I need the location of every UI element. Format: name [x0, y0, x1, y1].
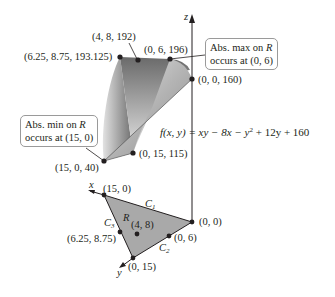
callout-abs-min: Abs. min on R occurs at (15, 0)	[20, 115, 98, 147]
label-r1: (15, 0)	[103, 184, 131, 195]
label-p6: (0, 15, 115)	[139, 149, 188, 160]
point-p5	[101, 158, 106, 163]
point-r6	[135, 232, 140, 237]
label-p4: (0, 0, 160)	[198, 75, 242, 86]
point-r5	[118, 230, 123, 235]
z-axis-arrow-icon	[189, 14, 195, 23]
y-axis-label: y	[117, 268, 122, 279]
label-r5: (6.25, 8.75)	[67, 234, 116, 245]
point-p2	[135, 57, 140, 62]
label-r2: (0, 0)	[199, 217, 222, 228]
point-p4	[189, 76, 194, 81]
point-r2	[190, 220, 195, 225]
point-p1	[117, 54, 122, 59]
leader-max-callout	[170, 55, 205, 59]
label-p3: (0, 6, 196)	[144, 45, 188, 56]
curve-label-c3: C3	[104, 218, 115, 230]
label-r6: (4, 8)	[131, 220, 154, 231]
x-axis-label: x	[89, 180, 94, 191]
label-p1: (6.25, 8.75, 193.125)	[24, 52, 112, 63]
function-formula: f(x, y) = xy − 8x − y2 + 12y + 160	[160, 126, 309, 138]
curve-label-c1: C1	[145, 199, 156, 211]
label-p2: (4, 8, 192)	[92, 32, 136, 43]
point-p3	[167, 56, 172, 61]
region-label: R	[123, 213, 129, 224]
curve-label-c2: C2	[159, 243, 170, 255]
label-p5: (15, 0, 40)	[55, 163, 99, 174]
x-axis-arrow-icon	[88, 190, 95, 194]
z-axis-label: z	[184, 12, 188, 23]
leader-p2	[129, 43, 137, 59]
label-r4: (0, 15)	[128, 262, 156, 273]
callout-abs-max: Abs. max on R occurs at (0, 6)	[205, 38, 278, 70]
point-r3	[167, 234, 172, 239]
label-r3: (0, 6)	[174, 233, 197, 244]
point-r4	[131, 256, 136, 261]
leader-min-callout	[86, 148, 104, 161]
point-p6	[130, 150, 135, 155]
